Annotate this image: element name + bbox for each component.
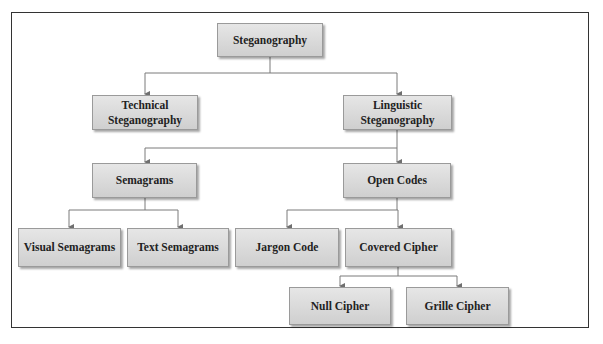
node-technical-steganography: Technical Steganography <box>92 95 198 130</box>
node-label: Steganography <box>233 33 307 48</box>
node-null-cipher: Null Cipher <box>289 287 391 325</box>
node-label: Open Codes <box>367 173 427 188</box>
node-jargon-code: Jargon Code <box>235 228 339 267</box>
node-label: Jargon Code <box>256 240 319 255</box>
node-label: Null Cipher <box>311 299 369 314</box>
node-label: Covered Cipher <box>359 240 438 255</box>
node-open-codes: Open Codes <box>343 163 451 198</box>
node-covered-cipher: Covered Cipher <box>345 228 452 267</box>
node-label: Visual Semagrams <box>24 240 115 255</box>
node-text-semagrams: Text Semagrams <box>127 228 229 267</box>
node-steganography: Steganography <box>217 23 323 57</box>
node-semagrams: Semagrams <box>92 163 197 198</box>
node-label: Linguistic Steganography <box>360 98 434 128</box>
node-linguistic-steganography: Linguistic Steganography <box>343 95 452 130</box>
node-label: Grille Cipher <box>424 299 490 314</box>
node-grille-cipher: Grille Cipher <box>406 287 509 325</box>
node-label: Text Semagrams <box>137 240 219 255</box>
node-label: Technical Steganography <box>108 98 182 128</box>
node-label: Semagrams <box>116 173 174 188</box>
node-visual-semagrams: Visual Semagrams <box>18 228 121 267</box>
